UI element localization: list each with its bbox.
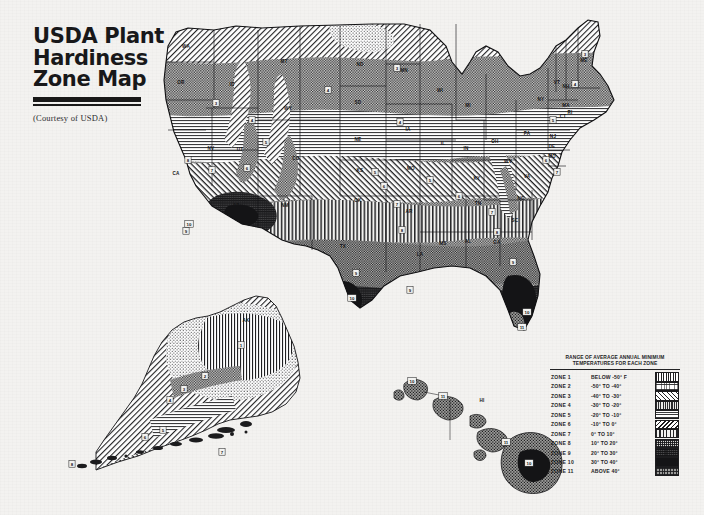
legend-title-minimum: MINIMUM xyxy=(642,355,665,360)
zone-number-marker: 6 xyxy=(456,193,462,200)
state-label: KY xyxy=(474,176,481,181)
state-label: NH xyxy=(562,84,570,89)
zone-number-marker: 5 xyxy=(160,427,166,434)
zone-number-label: 10 xyxy=(525,310,530,315)
state-label: NJ xyxy=(550,134,557,139)
legend-zone-name: ZONE 6 xyxy=(549,421,584,427)
zone-number-label: 11 xyxy=(520,325,525,330)
state-label: MS xyxy=(439,241,446,246)
state-label: MD xyxy=(548,154,556,159)
legend-zone-name: ZONE 4 xyxy=(549,402,584,408)
state-label: OH xyxy=(491,139,499,144)
state-label: PA xyxy=(524,131,531,136)
title-rule-thin xyxy=(33,104,141,106)
zone-number-marker: 3 xyxy=(213,100,219,107)
zone-number-label: 10 xyxy=(410,379,415,384)
legend-zone-name: ZONE 3 xyxy=(549,393,584,399)
legend-zone-name: ZONE 7 xyxy=(549,431,584,437)
zone-number-marker: 8 xyxy=(69,461,75,468)
state-label: MN xyxy=(400,68,408,73)
legend-temperature-range: 30° TO 40° xyxy=(584,459,655,465)
page-title-line-3: Zone Map xyxy=(33,69,193,91)
zone-number-marker: 5 xyxy=(372,169,378,176)
legend-divider xyxy=(550,369,680,370)
state-label: WV xyxy=(504,159,513,164)
legend-zone-name: ZONE 8 xyxy=(549,440,584,446)
legend-row-list: ZONE 1BELOW -50° FZONE 2-50° TO -40°ZONE… xyxy=(549,372,681,476)
zone-number-marker: 6 xyxy=(543,157,549,164)
state-label: ME xyxy=(580,58,587,63)
alaska-inset xyxy=(77,290,310,490)
zone-number-marker: 5 xyxy=(427,177,433,184)
zone-number-marker: 4 xyxy=(325,87,331,94)
legend-row: ZONE 5-20° TO -10° xyxy=(549,410,681,419)
legend-temperature-range: 10° TO 20° xyxy=(584,440,655,446)
zone-number-marker: 4 xyxy=(397,119,403,126)
state-label: NE xyxy=(355,137,362,142)
legend-temperature-range: BELOW -50° F xyxy=(584,374,655,380)
state-label: VT xyxy=(554,80,560,85)
legend-temperature-range: 0° TO 10° xyxy=(584,431,655,437)
state-label: WI xyxy=(437,88,443,93)
zone-number-marker: 4 xyxy=(572,81,578,88)
state-label: MI xyxy=(465,103,471,108)
state-label: AR xyxy=(405,209,413,214)
legend-zone-name: ZONE 5 xyxy=(549,412,584,418)
legend-temperature-range: -10° TO 0° xyxy=(584,421,655,427)
legend-title: RANGE OF AVERAGE ANNUAL MINIMUM TEMPERAT… xyxy=(549,354,681,368)
zone-number-label: 10 xyxy=(527,461,532,466)
legend-pattern-swatch xyxy=(655,467,679,476)
state-label: RI xyxy=(568,110,573,115)
legend-title-line-2: TEMPERATURES FOR EACH ZONE xyxy=(573,361,658,366)
state-label: SD xyxy=(355,100,362,105)
zone-number-marker: 6 xyxy=(142,434,148,441)
page-title-line-1: USDA Plant xyxy=(33,26,193,48)
legend-zone-name: ZONE 9 xyxy=(549,450,584,456)
legend-pattern-swatch xyxy=(655,391,679,400)
zone-number-marker: 9 xyxy=(183,228,189,235)
title-block: USDA Plant Hardiness Zone Map (Courtesy … xyxy=(33,26,193,123)
legend-zone-name: ZONE 2 xyxy=(549,383,584,389)
zone-number-marker: 5 xyxy=(550,117,556,124)
legend-pattern-swatch xyxy=(655,420,679,429)
legend-temperature-range: -20° TO -10° xyxy=(584,412,655,418)
zone-number-marker: 10 xyxy=(525,460,533,467)
legend-temperature-range: -40° TO -30° xyxy=(584,393,655,399)
state-label: HI xyxy=(480,398,485,403)
zone-number-marker: 11 xyxy=(439,393,447,400)
zone-number-marker: 9 xyxy=(353,270,359,277)
zone-number-marker: 7 xyxy=(209,167,215,174)
legend-temperature-range: 20° TO 30° xyxy=(584,450,655,456)
legend-pattern-swatch xyxy=(655,382,679,391)
courtesy-credit: (Courtesy of USDA) xyxy=(33,113,193,123)
legend-pattern-swatch xyxy=(655,401,679,410)
legend-row: ZONE 2-50° TO -40° xyxy=(549,382,681,391)
zone-number-marker: 5 xyxy=(263,139,269,146)
legend-zone-name: ZONE 11 xyxy=(549,468,584,474)
legend-zone-name: ZONE 10 xyxy=(549,459,584,465)
state-label: CT xyxy=(560,114,567,119)
state-label: TN xyxy=(475,201,482,206)
zone-number-label: 10 xyxy=(187,222,192,227)
legend-pattern-swatch xyxy=(655,457,679,466)
zone-number-marker: 3 xyxy=(582,51,588,58)
state-label: NV xyxy=(208,146,216,151)
zone-number-marker: 10 xyxy=(408,378,416,385)
legend-row: ZONE 920° TO 30° xyxy=(549,448,681,457)
state-label: SC xyxy=(512,218,519,223)
state-label: TX xyxy=(340,244,347,249)
title-rule-thick xyxy=(33,97,141,102)
legend-row: ZONE 1030° TO 40° xyxy=(549,457,681,466)
zone-number-marker: 7 xyxy=(489,209,495,216)
legend-temperature-range: -50° TO -40° xyxy=(584,383,655,389)
zone-number-label: 11 xyxy=(504,440,509,445)
zone-number-marker: 4 xyxy=(249,117,255,124)
hawaii-inset xyxy=(394,380,562,494)
zone-number-marker: 11 xyxy=(518,324,526,331)
conus-zones xyxy=(148,10,620,345)
zone-number-marker: 1 xyxy=(238,342,244,349)
state-label: UT xyxy=(237,147,244,152)
legend-temperature-range: -30° TO -20° xyxy=(584,402,655,408)
state-label: IL xyxy=(441,141,445,146)
legend-zone-name: ZONE 1 xyxy=(549,374,584,380)
